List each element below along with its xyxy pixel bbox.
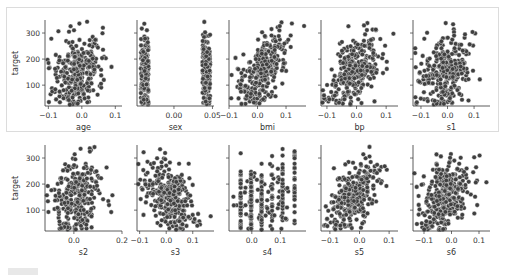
data-point	[452, 46, 457, 51]
data-point	[348, 95, 353, 100]
x-tick-label: 0.0	[252, 111, 264, 120]
data-point	[259, 192, 264, 197]
data-point	[449, 202, 454, 207]
data-point	[166, 175, 171, 180]
data-point	[254, 57, 259, 62]
data-point	[443, 84, 448, 89]
x-axis-label: bmi	[260, 123, 275, 132]
data-point	[75, 171, 80, 176]
x-tick-label: 0.0	[160, 236, 172, 245]
data-point	[426, 99, 431, 104]
data-point	[73, 157, 78, 162]
data-point	[55, 76, 60, 81]
data-point	[361, 152, 366, 157]
data-point	[359, 86, 364, 91]
data-point	[265, 43, 270, 48]
data-point	[413, 95, 418, 100]
data-point	[473, 194, 478, 199]
data-point	[441, 90, 446, 95]
data-point	[142, 69, 147, 74]
data-point	[443, 210, 448, 215]
data-point	[348, 44, 353, 49]
data-point	[259, 209, 264, 214]
data-point	[443, 21, 448, 26]
data-point	[448, 212, 453, 217]
data-point	[200, 39, 205, 44]
data-point	[104, 165, 109, 170]
data-point	[69, 201, 74, 206]
data-point	[80, 172, 85, 177]
y-tick-label: 200	[26, 180, 41, 189]
data-point	[359, 68, 364, 73]
data-point	[416, 203, 421, 208]
data-point	[268, 162, 273, 167]
data-point	[272, 55, 277, 60]
data-point	[369, 84, 374, 89]
data-point	[61, 88, 66, 93]
data-point	[99, 81, 104, 86]
x-tick-label: 0.1	[280, 111, 292, 120]
data-point	[249, 180, 254, 185]
data-point	[143, 182, 148, 187]
data-point	[158, 223, 163, 228]
data-point	[272, 48, 277, 53]
data-point	[288, 45, 293, 50]
data-point	[382, 164, 387, 169]
x-tick-label: 0.0	[76, 111, 88, 120]
data-point	[100, 31, 105, 36]
data-point	[361, 206, 366, 211]
data-point	[96, 45, 101, 50]
data-point	[72, 185, 77, 190]
data-point	[325, 217, 330, 222]
data-point	[462, 170, 467, 175]
data-point	[71, 172, 76, 177]
data-point	[424, 74, 429, 79]
x-tick-label: −0.1	[220, 111, 238, 120]
data-point	[465, 190, 470, 195]
data-point	[280, 153, 285, 158]
data-point	[160, 175, 165, 180]
data-point	[255, 199, 260, 204]
data-point	[99, 176, 104, 181]
data-point	[445, 68, 450, 73]
data-point	[89, 81, 94, 86]
data-point	[337, 197, 342, 202]
data-point	[259, 162, 264, 167]
data-point	[355, 175, 360, 180]
data-point	[380, 56, 385, 61]
data-point	[455, 167, 460, 172]
data-point	[201, 47, 206, 52]
data-point	[249, 172, 254, 177]
data-point	[453, 177, 458, 182]
data-point	[331, 200, 336, 205]
data-point	[452, 33, 457, 38]
data-point	[439, 56, 444, 61]
data-point	[87, 65, 92, 70]
data-point	[359, 101, 364, 106]
data-point	[243, 84, 248, 89]
data-point	[477, 153, 482, 158]
data-point	[332, 74, 337, 79]
data-point	[208, 214, 213, 219]
data-point	[141, 168, 146, 173]
data-point	[329, 90, 334, 95]
data-point	[360, 64, 365, 69]
data-point	[85, 19, 90, 24]
data-point	[456, 187, 461, 192]
data-point	[435, 73, 440, 78]
data-point	[160, 218, 165, 223]
data-point	[471, 170, 476, 175]
data-point	[172, 189, 177, 194]
data-point	[144, 200, 149, 205]
data-point	[238, 219, 243, 224]
data-point	[66, 184, 71, 189]
data-point	[432, 217, 437, 222]
data-point	[419, 96, 424, 101]
data-point	[248, 60, 253, 65]
data-point	[152, 161, 157, 166]
data-point	[259, 202, 264, 207]
data-point	[72, 28, 77, 33]
data-point	[82, 166, 87, 171]
data-point	[244, 212, 249, 217]
data-point	[424, 219, 429, 224]
